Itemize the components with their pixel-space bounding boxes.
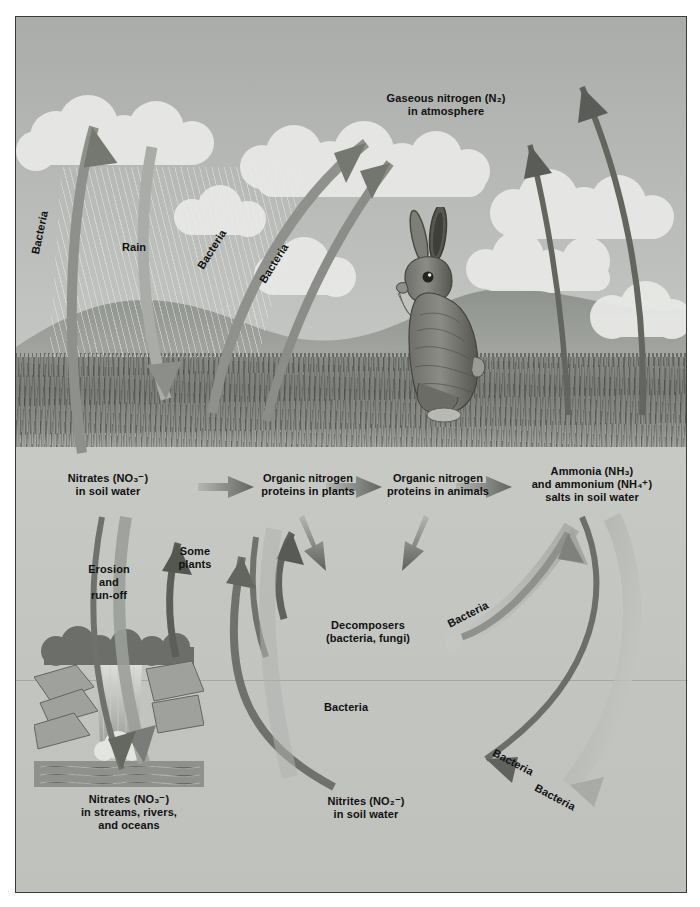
grass-field: [16, 357, 686, 449]
label-organic-plants: Organic nitrogen proteins in plants: [244, 472, 372, 498]
waterfall-illustration: [34, 617, 204, 787]
label-ammonia: Ammonia (NH₃) and ammonium (NH₄⁺) salts …: [516, 465, 668, 504]
label-organic-animals: Organic nitrogen proteins in animals: [374, 472, 502, 498]
nitrogen-cycle-figure: Gaseous nitrogen (N₂) in atmosphere Nitr…: [15, 16, 687, 893]
label-bacteria-nitrification-lower: Bacteria: [308, 701, 384, 714]
label-nitrites-soil: Nitrites (NO₂⁻) in soil water: [296, 795, 436, 821]
label-decomposers: Decomposers (bacteria, fungi): [298, 619, 438, 645]
label-nitrates-water: Nitrates (NO₃⁻) in streams, rivers, and …: [54, 793, 204, 832]
label-erosion-runoff: Erosion and run-off: [74, 563, 144, 602]
rabbit-illustration: [386, 207, 496, 427]
label-nitrates-soil: Nitrates (NO₃⁻) in soil water: [38, 472, 178, 498]
label-some-plants: Some plants: [164, 545, 226, 571]
label-atmosphere: Gaseous nitrogen (N₂) in atmosphere: [346, 92, 546, 118]
label-rain: Rain: [104, 241, 164, 254]
screenshot-root: Gaseous nitrogen (N₂) in atmosphere Nitr…: [0, 0, 700, 907]
